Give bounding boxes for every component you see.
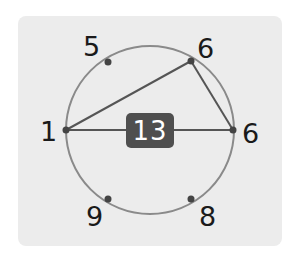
point-bottom-right (188, 196, 195, 203)
point-bottom-left (105, 196, 112, 203)
label-left: 1 (40, 118, 57, 145)
center-value-badge: 13 (126, 113, 174, 148)
label-bottom-right: 8 (199, 203, 216, 230)
label-bottom-left: 9 (86, 203, 103, 230)
label-right: 6 (242, 120, 259, 147)
point-right (230, 127, 237, 134)
label-top-right: 6 (197, 35, 214, 62)
point-top-right (188, 58, 195, 65)
point-top-left (105, 59, 112, 66)
label-top-left: 5 (83, 33, 100, 60)
point-left (63, 127, 70, 134)
